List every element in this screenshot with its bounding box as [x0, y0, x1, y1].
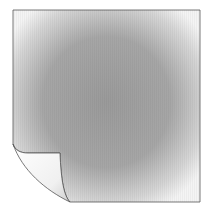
page-curl-icon	[0, 0, 213, 219]
sticky-note-illustration	[0, 0, 213, 219]
